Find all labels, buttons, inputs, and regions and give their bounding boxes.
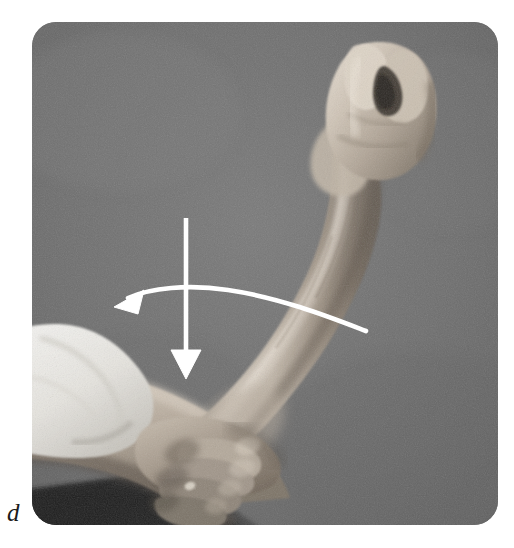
- clinical-photograph: [32, 22, 498, 525]
- panel-label: d: [7, 498, 33, 528]
- photograph-canvas: [32, 22, 498, 525]
- figure-root: d: [0, 0, 514, 548]
